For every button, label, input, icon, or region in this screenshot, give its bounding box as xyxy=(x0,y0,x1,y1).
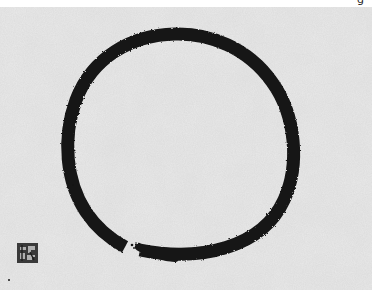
paper-background xyxy=(0,7,372,290)
seal-icon xyxy=(17,243,38,263)
enso-painting xyxy=(0,7,372,290)
artist-seal xyxy=(17,250,38,270)
caption-fragment: g xyxy=(357,0,364,6)
